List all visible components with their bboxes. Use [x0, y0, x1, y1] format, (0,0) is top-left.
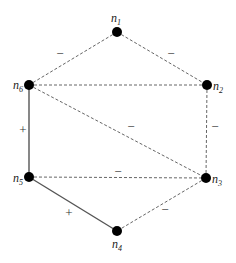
edge-sign-n5-n4: +: [65, 205, 72, 220]
node-n1: [112, 27, 122, 37]
node-label-n5: n5: [13, 171, 23, 187]
edge-n2-n3: [206, 85, 207, 178]
edge-n1-n2: [117, 32, 207, 85]
node-label-n3: n3: [212, 172, 222, 188]
edges-layer: [29, 32, 207, 231]
signed-graph-diagram: −−−−+−+− n1n2n3n4n5n6: [0, 0, 236, 263]
node-label-n6: n6: [13, 78, 23, 94]
edge-sign-n6-n5: +: [19, 122, 26, 137]
node-label-n2: n2: [213, 79, 223, 95]
edge-n5-n4: [29, 177, 117, 231]
node-n4: [112, 226, 122, 236]
edge-sign-n2-n3: −: [211, 119, 218, 134]
node-label-n4: n4: [112, 237, 122, 253]
edge-signs-layer: −−−−+−+−: [19, 46, 218, 220]
node-n2: [202, 80, 212, 90]
edge-sign-n3-n4: −: [161, 202, 168, 217]
node-n3: [201, 173, 211, 183]
edge-sign-n1-n2: −: [167, 46, 174, 61]
edge-sign-n5-n3: −: [114, 164, 121, 179]
edge-n1-n6: [29, 32, 117, 85]
node-n5: [24, 172, 34, 182]
edge-sign-n1-n6: −: [56, 46, 63, 61]
edge-sign-n6-n3: −: [127, 119, 134, 134]
node-label-n1: n1: [111, 11, 121, 27]
node-n6: [24, 80, 34, 90]
